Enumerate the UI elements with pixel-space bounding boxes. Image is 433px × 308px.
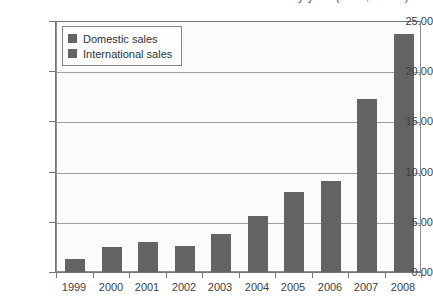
bar (102, 247, 122, 273)
x-axis-tick (166, 273, 167, 278)
x-axis-label: 1999 (62, 281, 86, 293)
x-axis-tick (56, 273, 57, 278)
x-axis-tick (275, 273, 276, 278)
bar (284, 192, 304, 273)
x-axis-tick (348, 273, 349, 278)
gridline (57, 72, 420, 73)
y-axis-label: 5.00 (387, 216, 433, 228)
y-axis-label: 15.00 (387, 115, 433, 127)
y-axis-tick (49, 21, 56, 22)
x-axis-label: 2000 (99, 281, 123, 293)
x-axis-tick (129, 273, 130, 278)
y-axis-tick (49, 222, 56, 223)
chart-title: Sales by year (USD, billion) (0, 0, 433, 3)
x-axis-label: 2001 (135, 281, 159, 293)
legend-item-label: Domestic sales (83, 33, 158, 45)
x-axis-label: 2002 (172, 281, 196, 293)
bar (211, 234, 231, 273)
legend-swatch-icon (68, 49, 77, 58)
x-axis-tick (239, 273, 240, 278)
legend-item[interactable]: International sales (68, 46, 172, 61)
chart-legend: Domestic salesInternational sales (62, 26, 182, 66)
bar (65, 259, 85, 273)
y-axis-label: 25.00 (387, 15, 433, 27)
y-axis-label: 20.00 (387, 65, 433, 77)
x-axis-tick (312, 273, 313, 278)
x-axis-label: 2005 (281, 281, 305, 293)
x-axis-label: 2006 (318, 281, 342, 293)
x-axis-label: 2007 (354, 281, 378, 293)
y-axis-label: 10.00 (387, 166, 433, 178)
y-axis-tick (49, 71, 56, 72)
y-axis-tick (49, 121, 56, 122)
x-axis-label: 2008 (391, 281, 415, 293)
y-axis-tick (49, 172, 56, 173)
x-axis-label: 2003 (208, 281, 232, 293)
bar (138, 242, 158, 273)
bar-chart: Sales by year (USD, billion) 0.005.0010.… (0, 0, 433, 308)
bar (321, 181, 341, 273)
x-axis-tick (421, 273, 422, 278)
bar (248, 216, 268, 273)
bar (175, 246, 195, 273)
legend-item[interactable]: Domestic sales (68, 31, 172, 46)
x-axis-tick (202, 273, 203, 278)
bar (357, 99, 377, 273)
x-axis-tick (385, 273, 386, 278)
y-axis-line (55, 21, 56, 273)
legend-item-label: International sales (83, 48, 172, 60)
legend-swatch-icon (68, 34, 77, 43)
x-axis-label: 2004 (245, 281, 269, 293)
x-axis-tick (93, 273, 94, 278)
